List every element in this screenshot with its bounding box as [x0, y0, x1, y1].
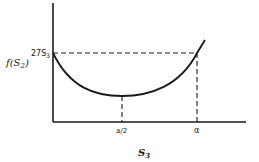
y-axis-label: f(S2) [5, 57, 29, 70]
diagram-canvas: f(S2) 27S3 a/2 α S3 [0, 0, 259, 162]
x-tick-label-mid: a/2 [116, 127, 127, 135]
y-tick-label: 27S3 [31, 49, 50, 59]
x-axis-label: S3 [138, 147, 150, 160]
function-curve [53, 40, 205, 96]
x-tick-label-alpha: α [194, 126, 199, 135]
